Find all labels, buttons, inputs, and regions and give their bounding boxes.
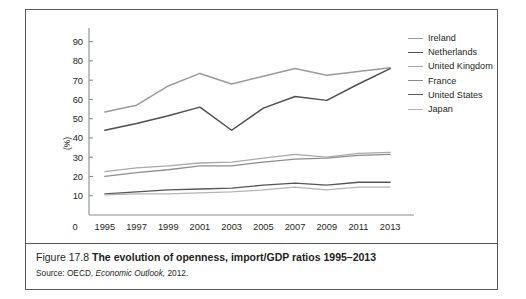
x-tick-label: 1997 <box>126 222 147 232</box>
legend-item-netherlands: Netherlands <box>408 45 500 59</box>
source-year: 2012. <box>167 268 188 278</box>
legend-label: United Kingdom <box>428 61 493 71</box>
y-tick-label: 80 <box>73 56 83 66</box>
legend-item-france: France <box>408 74 500 88</box>
y-tick-label: 90 <box>73 37 83 47</box>
x-tick-label: 0 <box>72 222 77 232</box>
caption-block: Figure 17.8 The evolution of openness, i… <box>26 244 497 289</box>
chart-legend: IrelandNetherlandsUnited KingdomFranceUn… <box>408 31 500 116</box>
figure-number: Figure 17.8 <box>36 251 89 263</box>
legend-label: Ireland <box>428 33 456 43</box>
legend-label: Japan <box>428 104 453 114</box>
x-tick-label: 2005 <box>253 222 274 232</box>
figure-caption: Figure 17.8 The evolution of openness, i… <box>36 251 487 264</box>
y-tick-label: 50 <box>73 114 83 124</box>
x-tick-label: 2011 <box>348 222 368 232</box>
figure-source: Source: OECD, Economic Outlook, 2012. <box>36 267 487 279</box>
legend-swatch-icon <box>408 109 423 110</box>
x-tick-label: 2009 <box>316 222 337 232</box>
x-axis: 0199519971999200120032005200720092011201… <box>72 215 414 232</box>
series-line-netherlands <box>105 69 390 131</box>
series-lines <box>105 68 390 195</box>
legend-swatch-icon <box>408 52 423 53</box>
legend-item-united-states: United States <box>408 88 500 102</box>
y-axis-title: (%) <box>62 137 72 150</box>
y-tick-label: 70 <box>73 76 83 86</box>
y-axis: 102030405060708090 <box>73 28 93 215</box>
series-line-united-kingdom <box>105 152 390 171</box>
x-tick-label: 2007 <box>285 222 306 232</box>
legend-label: United States <box>428 90 483 100</box>
series-line-france <box>105 154 390 176</box>
legend-item-japan: Japan <box>408 102 500 116</box>
figure-title: The evolution of openness, import/GDP ra… <box>92 251 376 263</box>
y-tick-label: 40 <box>73 133 83 143</box>
legend-swatch-icon <box>408 94 423 95</box>
legend-label: Netherlands <box>428 47 477 57</box>
legend-swatch-icon <box>408 80 423 81</box>
x-tick-label: 2001 <box>190 222 211 232</box>
figure-frame: 102030405060708090 019951997199920012003… <box>25 9 498 290</box>
y-tick-label: 10 <box>73 191 83 201</box>
y-tick-label: 30 <box>73 153 83 163</box>
legend-item-united-kingdom: United Kingdom <box>408 59 500 73</box>
x-tick-label: 2003 <box>221 222 242 232</box>
y-tick-label: 60 <box>73 95 83 105</box>
legend-swatch-icon <box>408 66 423 67</box>
source-publication: Economic Outlook, <box>96 268 166 278</box>
legend-swatch-icon <box>408 38 423 39</box>
legend-label: France <box>428 76 456 86</box>
x-tick-label: 1995 <box>95 222 116 232</box>
source-prefix: Source: OECD, <box>36 268 93 278</box>
y-tick-label: 20 <box>73 172 83 182</box>
legend-item-ireland: Ireland <box>408 31 500 45</box>
x-tick-label: 1999 <box>158 222 179 232</box>
x-tick-label: 2013 <box>380 222 401 232</box>
